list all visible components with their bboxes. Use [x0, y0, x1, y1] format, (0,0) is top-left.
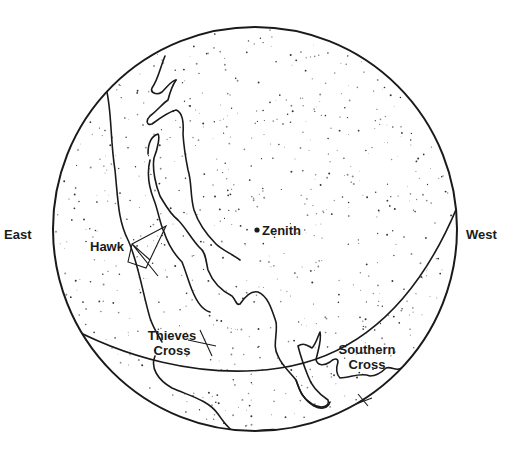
milky-way-edge [147, 80, 240, 260]
thieves-cross-label-line1: Thieves [144, 328, 200, 343]
sky-diagram: East West Zenith Hawk Thieves Cross Sout… [0, 0, 512, 449]
hawk-constellation [128, 226, 166, 276]
zenith-label: Zenith [262, 223, 301, 238]
ecliptic-line [60, 200, 460, 371]
southern-cross-label-line2: Cross [334, 357, 400, 372]
zenith-dot [254, 227, 259, 232]
sky-chart-graphic [0, 0, 512, 449]
thieves-cross-label: Thieves Cross [144, 328, 200, 358]
milky-way-edge [106, 88, 162, 342]
thieves-cross-label-line2: Cross [144, 343, 200, 358]
hawk-label: Hawk [90, 239, 124, 254]
southern-cross-label: Southern Cross [334, 342, 400, 372]
southern-cross-label-line1: Southern [334, 342, 400, 357]
west-label: West [466, 227, 497, 242]
milky-way-edge [148, 134, 330, 408]
east-label: East [4, 227, 31, 242]
